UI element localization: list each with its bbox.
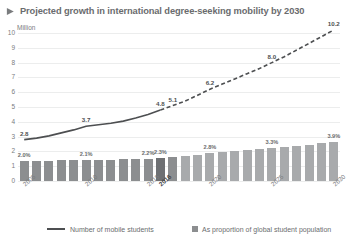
bar-value-label: 2.2% xyxy=(142,151,155,157)
bar-value-label: 2.8% xyxy=(204,145,217,151)
y-axis-tick-label: 4 xyxy=(11,119,15,126)
y-axis-tick-label: 2 xyxy=(11,148,15,155)
line-value-label: 10.2 xyxy=(328,21,340,27)
y-axis-tick-label: 6 xyxy=(11,89,15,96)
bar-value-label: 2.3% xyxy=(154,150,167,156)
legend-bar-label: As proportion of global student populati… xyxy=(202,226,331,233)
line-value-label: 8.0 xyxy=(268,54,277,60)
legend-line-label: Number of mobile students xyxy=(70,226,154,233)
bar-value-label: 2.0% xyxy=(18,153,31,159)
legend-item-bar: As proportion of global student populati… xyxy=(192,226,331,233)
chart-title-bar: Projected growth in international degree… xyxy=(0,3,347,19)
y-axis-tick-label: 10 xyxy=(8,30,15,37)
line-value-label: 2.8 xyxy=(20,131,29,137)
line-projected-path xyxy=(160,30,333,110)
bar-value-label: 2.1% xyxy=(80,152,93,158)
bar-value-label: 3.3% xyxy=(266,140,279,146)
y-axis-tick-label: 8 xyxy=(11,59,15,66)
y-axis-unit-label: Million xyxy=(17,24,35,31)
bar-value-label: 3.9% xyxy=(327,134,340,140)
line-value-label: 4.8 xyxy=(156,101,165,107)
y-axis-tick-label: 1 xyxy=(11,163,15,170)
right-arrow-icon xyxy=(6,7,15,16)
y-axis-tick-label: 9 xyxy=(11,45,15,52)
line-actual-path xyxy=(24,110,160,140)
y-axis-tick-label: 0 xyxy=(11,178,15,185)
line-value-label: 3.7 xyxy=(82,117,91,123)
page-title: Projected growth in international degree… xyxy=(20,6,304,16)
plot-area: 012345678910 2.83.74.85.16.28.010.2 2.0%… xyxy=(18,33,340,181)
y-axis-tick-label: 5 xyxy=(11,104,15,111)
y-axis-tick-label: 7 xyxy=(11,74,15,81)
line-value-label: 6.2 xyxy=(206,80,215,86)
line-swatch-icon xyxy=(47,228,65,230)
chart-legend: Number of mobile students As proportion … xyxy=(0,222,347,236)
line-series xyxy=(18,33,340,181)
bar-swatch-icon xyxy=(192,226,198,232)
legend-item-line: Number of mobile students xyxy=(47,226,154,233)
x-axis-ticks: 2005201020152016202020252030 xyxy=(18,181,340,211)
y-axis-tick-label: 3 xyxy=(11,133,15,140)
line-value-label: 5.1 xyxy=(168,97,177,103)
